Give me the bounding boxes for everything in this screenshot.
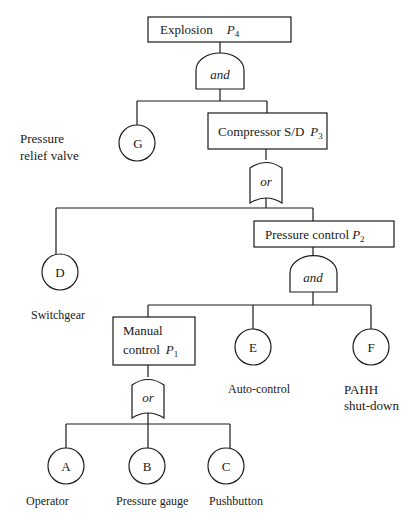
- basic-event-d-id: D: [55, 265, 64, 280]
- basic-event-f-label-1: PAHH: [344, 382, 378, 397]
- basic-event-a-id: A: [61, 459, 71, 474]
- gate-and-1-label: and: [210, 67, 230, 82]
- basic-event-c-id: C: [222, 459, 231, 474]
- basic-event-g-id: G: [133, 136, 142, 151]
- basic-event-e-id: E: [249, 340, 257, 355]
- fault-tree-diagram: ExplosionP4 and G Pressure relief valve …: [0, 0, 415, 522]
- manual-event-label-1: Manual: [123, 323, 163, 338]
- gate-or-2-label: or: [142, 390, 155, 405]
- basic-event-f-id: F: [367, 340, 374, 355]
- basic-event-b-id: B: [143, 459, 152, 474]
- gate-or-1-label: or: [260, 174, 273, 189]
- basic-event-g-label-2: relief valve: [20, 148, 79, 163]
- basic-event-e-label: Auto-control: [228, 382, 291, 396]
- basic-event-f-label-2: shut-down: [344, 398, 399, 413]
- basic-event-d-label: Switchgear: [31, 308, 85, 322]
- basic-event-a-label: Operator: [26, 494, 69, 508]
- basic-event-b-label: Pressure gauge: [116, 494, 188, 508]
- compressor-event-label: Compressor S/DP3: [218, 124, 323, 141]
- manual-event-label-2: controlP1: [123, 342, 178, 359]
- gate-and-2-label: and: [303, 270, 323, 285]
- top-event-label: ExplosionP4: [160, 22, 240, 39]
- pressure-control-event-label: Pressure controlP2: [265, 227, 365, 244]
- basic-event-g-label-1: Pressure: [20, 131, 64, 146]
- basic-event-c-label: Pushbutton: [209, 494, 263, 508]
